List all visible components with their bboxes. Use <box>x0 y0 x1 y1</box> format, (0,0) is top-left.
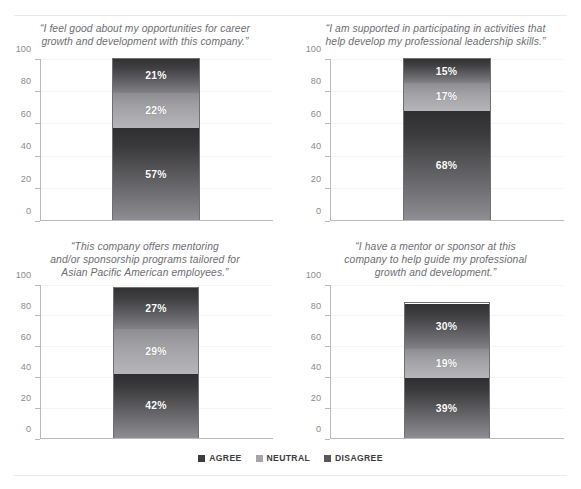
y-tick-40 <box>325 156 330 157</box>
chart-panel-4: “I have a mentor or sponsor at this comp… <box>290 236 581 454</box>
plot-area-3: 100806040200 42%29%27% <box>40 285 272 439</box>
y-tick-label-80: 80 <box>21 301 31 311</box>
y-tick-0 <box>35 439 40 440</box>
chart-title-1: “I feel good about my opportunities for … <box>6 22 284 48</box>
bar-segment-disagree[interactable]: 21% <box>113 59 199 93</box>
y-tick-label-40: 40 <box>21 362 31 372</box>
bar-segment-label: 22% <box>145 105 167 116</box>
bar-segment-agree[interactable]: 39% <box>405 378 489 438</box>
x-axis-line-2 <box>330 220 564 221</box>
y-tick-20 <box>35 408 40 409</box>
y-tick-label-20: 20 <box>311 174 321 184</box>
legend-label: NEUTRAL <box>267 453 311 463</box>
y-tick-40 <box>325 377 330 378</box>
bar-segment-label: 30% <box>436 321 458 332</box>
legend-item-neutral[interactable]: NEUTRAL <box>256 453 311 463</box>
chart-panel-1: “I feel good about my opportunities for … <box>0 18 290 236</box>
y-tick-label-0: 0 <box>26 206 31 216</box>
y-axis-line-2 <box>330 59 331 221</box>
y-tick-80 <box>325 315 330 316</box>
y-tick-20 <box>35 188 40 189</box>
bar-segment-agree[interactable]: 68% <box>404 111 490 220</box>
plot-area-4: 100806040200 39%19%30% <box>330 285 563 439</box>
chart-title-3: “This company offers mentoring and/or sp… <box>6 240 284 280</box>
y-tick-label-40: 40 <box>311 362 321 372</box>
legend-label: DISAGREE <box>335 453 383 463</box>
chart-grid: “I feel good about my opportunities for … <box>0 18 581 454</box>
x-axis-line-4 <box>330 438 564 439</box>
y-tick-label-80: 80 <box>21 76 31 86</box>
y-tick-0 <box>325 221 330 222</box>
y-tick-60 <box>35 346 40 347</box>
y-tick-100 <box>35 285 40 286</box>
y-tick-20 <box>325 408 330 409</box>
y-tick-label-100: 100 <box>16 270 31 280</box>
y-tick-label-100: 100 <box>306 270 321 280</box>
y-axis-line-1 <box>40 59 41 221</box>
bar-segment-agree[interactable]: 57% <box>113 128 199 220</box>
legend-swatch-icon <box>256 455 263 462</box>
y-tick-label-60: 60 <box>311 332 321 342</box>
y-tick-label-80: 80 <box>311 76 321 86</box>
legend-swatch-icon <box>324 455 331 462</box>
y-tick-label-80: 80 <box>311 301 321 311</box>
y-axis-line-3 <box>40 285 41 439</box>
bar-segment-neutral[interactable]: 29% <box>114 329 198 373</box>
legend-item-agree[interactable]: AGREE <box>198 453 241 463</box>
y-tick-label-40: 40 <box>21 141 31 151</box>
y-tick-label-0: 0 <box>316 206 321 216</box>
y-tick-40 <box>35 377 40 378</box>
y-tick-label-60: 60 <box>21 109 31 119</box>
y-tick-0 <box>325 439 330 440</box>
bar-segment-label: 15% <box>436 66 458 77</box>
legend-item-disagree[interactable]: DISAGREE <box>324 453 383 463</box>
y-tick-label-60: 60 <box>21 332 31 342</box>
stacked-bar-4[interactable]: 39%19%30% <box>404 302 490 438</box>
bar-segment-label: 39% <box>436 403 458 414</box>
y-tick-label-40: 40 <box>311 141 321 151</box>
legend-label: AGREE <box>209 453 241 463</box>
bar-segment-agree[interactable]: 42% <box>114 374 198 438</box>
bar-segment-label: 29% <box>145 346 167 357</box>
bar-segment-label: 42% <box>145 400 167 411</box>
y-tick-60 <box>325 346 330 347</box>
bar-segment-neutral[interactable]: 22% <box>113 93 199 128</box>
y-tick-20 <box>325 188 330 189</box>
chart-title-4: “I have a mentor or sponsor at this comp… <box>296 240 575 280</box>
bar-segment-disagree[interactable]: 15% <box>404 59 490 83</box>
bar-segment-disagree[interactable]: 27% <box>114 288 198 329</box>
y-tick-80 <box>35 315 40 316</box>
legend-swatch-icon <box>198 455 205 462</box>
y-tick-label-100: 100 <box>16 44 31 54</box>
y-tick-label-100: 100 <box>306 44 321 54</box>
y-tick-label-20: 20 <box>21 174 31 184</box>
stacked-bar-2[interactable]: 68%17%15% <box>403 58 491 220</box>
bar-segment-disagree[interactable]: 30% <box>405 304 489 350</box>
bar-segment-label: 27% <box>145 303 167 314</box>
bar-segment-label: 17% <box>436 91 458 102</box>
y-tick-80 <box>35 91 40 92</box>
y-tick-100 <box>325 59 330 60</box>
y-tick-label-20: 20 <box>21 393 31 403</box>
y-tick-label-60: 60 <box>311 109 321 119</box>
bar-segment-label: 21% <box>145 70 167 81</box>
top-divider-rule <box>14 15 567 16</box>
chart-legend: AGREENEUTRALDISAGREE <box>0 453 581 463</box>
y-axis-line-4 <box>330 285 331 439</box>
y-tick-label-0: 0 <box>316 424 321 434</box>
y-tick-label-0: 0 <box>26 424 31 434</box>
bar-segment-label: 19% <box>436 358 458 369</box>
y-tick-0 <box>35 221 40 222</box>
bar-segment-neutral[interactable]: 19% <box>405 349 489 378</box>
stacked-bar-3[interactable]: 42%29%27% <box>113 287 199 438</box>
bottom-divider-rule <box>14 475 567 476</box>
bar-segment-neutral[interactable]: 17% <box>404 83 490 110</box>
survey-chart-page: “I feel good about my opportunities for … <box>0 0 581 489</box>
bar-segment-label: 68% <box>436 160 458 171</box>
gridline-100 <box>331 285 563 286</box>
y-tick-60 <box>325 123 330 124</box>
chart-panel-2: “I am supported in participating in acti… <box>290 18 581 236</box>
y-tick-100 <box>325 285 330 286</box>
stacked-bar-1[interactable]: 57%22%21% <box>112 58 200 220</box>
y-tick-40 <box>35 156 40 157</box>
